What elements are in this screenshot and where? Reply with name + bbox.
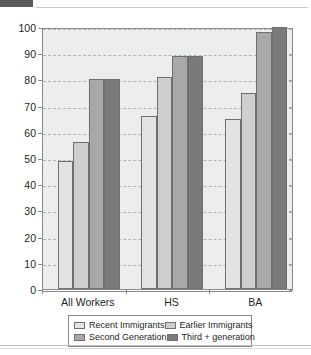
x-axis-tick-mark <box>209 290 210 294</box>
bar <box>89 79 105 289</box>
y-axis-tick-mark-right <box>289 54 293 55</box>
bar <box>225 119 241 289</box>
y-axis-tick-mark-right <box>289 133 293 134</box>
y-axis-tick-mark <box>38 211 42 212</box>
bar <box>272 27 288 289</box>
bar <box>157 77 173 289</box>
bar <box>188 56 204 289</box>
y-axis-tick-mark-right <box>289 264 293 265</box>
y-axis-tick-mark-right <box>289 159 293 160</box>
legend-swatch-icon <box>74 334 85 341</box>
legend-label: Earlier Immigrants <box>180 320 253 330</box>
bar <box>241 93 257 290</box>
legend-item-0: Recent Immigrants <box>74 320 165 330</box>
x-axis-tick-label: All Workers <box>61 296 114 308</box>
legend-item-1: Earlier Immigrants <box>165 320 253 330</box>
bar <box>172 56 188 289</box>
y-axis-tick-mark <box>38 185 42 186</box>
bar-group <box>43 29 127 289</box>
bar <box>256 32 272 289</box>
y-axis-tick-label: 40 <box>4 179 36 191</box>
footer-divider <box>0 345 311 346</box>
y-axis-tick-label: 20 <box>4 232 36 244</box>
x-axis-tick-label: BA <box>248 296 262 308</box>
x-axis-tick-mark <box>126 290 127 294</box>
bar <box>141 116 157 289</box>
y-axis-tick-mark-right <box>289 290 293 291</box>
y-axis-tick-mark-right <box>289 211 293 212</box>
bar-group <box>210 29 294 289</box>
y-axis-tick-mark <box>38 159 42 160</box>
bar <box>58 161 74 289</box>
y-axis-tick-mark-right <box>289 185 293 186</box>
gridline <box>43 291 292 292</box>
header-color-block <box>0 0 33 7</box>
y-axis-tick-mark <box>38 264 42 265</box>
plot-inner <box>43 29 292 289</box>
legend-label: Third + generation <box>182 332 255 342</box>
legend-swatch-icon <box>167 334 178 341</box>
y-axis-tick-mark <box>38 107 42 108</box>
legend-row: Second Generation Third + generation <box>74 331 247 343</box>
legend-item-2: Second Generation <box>74 332 167 342</box>
x-axis-tick-label: HS <box>164 296 179 308</box>
legend-row: Recent Immigrants Earlier Immigrants <box>74 319 247 331</box>
bar <box>73 142 89 289</box>
chart-legend: Recent Immigrants Earlier Immigrants Sec… <box>68 315 252 347</box>
legend-swatch-icon <box>165 322 176 329</box>
y-axis-tick-label: 60 <box>4 127 36 139</box>
bar-group <box>127 29 211 289</box>
y-axis-tick-mark-right <box>289 107 293 108</box>
legend-swatch-icon <box>74 322 85 329</box>
y-axis-tick-mark <box>38 54 42 55</box>
y-axis-tick-label: 50 <box>4 153 36 165</box>
y-axis-tick-label: 90 <box>4 48 36 60</box>
y-axis-tick-mark <box>38 28 42 29</box>
y-axis-tick-mark-right <box>289 80 293 81</box>
plot-area <box>42 28 293 290</box>
y-axis-tick-label: 0 <box>4 284 36 296</box>
y-axis-tick-mark <box>38 133 42 134</box>
footer-divider-secondary <box>0 348 311 349</box>
legend-label: Recent Immigrants <box>89 320 165 330</box>
y-axis-tick-mark-right <box>289 238 293 239</box>
bar <box>104 79 120 289</box>
y-axis-tick-label: 70 <box>4 101 36 113</box>
legend-item-3: Third + generation <box>167 332 255 342</box>
y-axis-tick-mark <box>38 80 42 81</box>
y-axis-tick-label: 100 <box>4 22 36 34</box>
y-axis-tick-label: 30 <box>4 205 36 217</box>
header-divider <box>36 7 308 8</box>
y-axis-tick-mark <box>38 238 42 239</box>
y-axis-tick-label: 80 <box>4 74 36 86</box>
y-axis-tick-mark-right <box>289 28 293 29</box>
y-axis-tick-label: 10 <box>4 258 36 270</box>
chart-figure: Recent Immigrants Earlier Immigrants Sec… <box>0 12 311 337</box>
legend-label: Second Generation <box>89 332 167 342</box>
x-axis-tick-mark <box>42 290 43 294</box>
